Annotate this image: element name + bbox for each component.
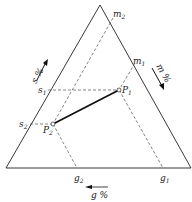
ternary-diagram: P1 P2 m2 m1 s1 s2 g2 g1 s % m % g % (0, 0, 192, 202)
tick-m1: m1 (133, 56, 145, 67)
dashed-g1-line (119, 90, 163, 168)
label-p1: P1 (121, 85, 132, 96)
arrowhead-s-icon (43, 59, 48, 66)
axis-g-label: g % (91, 190, 108, 200)
axis-m: m % (152, 62, 173, 90)
axis-s-label: s % (29, 66, 46, 85)
axis-g: g % (85, 185, 108, 200)
tick-s1: s1 (38, 85, 46, 96)
tick-g2: g2 (74, 173, 84, 184)
dashed-g2-line (53, 124, 77, 168)
axis-s: s % (29, 59, 48, 85)
tick-s2: s2 (19, 119, 28, 130)
tick-g1: g1 (160, 173, 170, 184)
arrowhead-g-icon (85, 185, 92, 189)
label-p2: P2 (42, 125, 53, 136)
arrowhead-m-icon (159, 83, 164, 90)
point-p2 (51, 122, 55, 126)
tick-m2: m2 (113, 9, 126, 20)
axis-m-label: m % (154, 62, 173, 84)
point-p1 (117, 88, 121, 92)
